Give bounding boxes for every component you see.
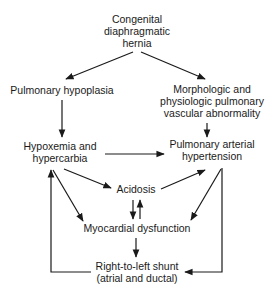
arrow-cdh-to-hypoplasia (66, 52, 133, 79)
node-hypoxemia-hypercarbia: Hypoxemia and hypercarbia (24, 140, 97, 164)
node-label-line: Pulmonary hypoplasia (10, 84, 113, 96)
node-pulmonary-arterial-hypertension: Pulmonary arterial hypertension (169, 138, 254, 162)
node-label-line: Morphologic and (173, 83, 251, 95)
node-vascular-abnormality: Morphologic and physiologic pulmonary va… (160, 83, 265, 119)
node-label-line: Pulmonary arterial (169, 138, 254, 150)
cdh-pathophysiology-diagram: Congenital diaphragmatic hernia Pulmonar… (0, 0, 274, 297)
node-congenital-diaphragmatic-hernia: Congenital diaphragmatic hernia (104, 13, 170, 49)
node-label-line: vascular abnormality (164, 107, 261, 119)
arrow-acidosis-to-pah (161, 170, 205, 189)
arrow-pah-to-shunt (185, 168, 222, 272)
node-label-line: hernia (122, 37, 151, 49)
node-label-line: Congenital (112, 13, 162, 25)
arrow-hypoxemia-to-myocardial (53, 170, 83, 221)
node-label-line: diaphragmatic (104, 25, 170, 37)
node-label-line: hypercarbia (33, 152, 88, 164)
node-acidosis: Acidosis (116, 183, 155, 195)
node-label-line: (atrial and ductal) (96, 272, 177, 284)
node-label-line: Acidosis (116, 183, 155, 195)
node-pulmonary-hypoplasia: Pulmonary hypoplasia (10, 84, 113, 96)
node-right-to-left-shunt: Right-to-left shunt (atrial and ductal) (96, 260, 179, 284)
node-label-line: hypertension (182, 150, 242, 162)
node-label-line: physiologic pulmonary (160, 95, 265, 107)
node-label-line: Right-to-left shunt (96, 260, 179, 272)
node-label-line: Hypoxemia and (24, 140, 97, 152)
arrow-cdh-to-vascular (141, 52, 205, 79)
arrow-shunt-to-hypoxemia (51, 170, 91, 272)
arrow-hypoxemia-to-acidosis (64, 169, 111, 188)
node-label-line: Myocardial dysfunction (84, 222, 191, 234)
node-myocardial-dysfunction: Myocardial dysfunction (84, 222, 191, 234)
arrow-pah-to-myocardial (191, 169, 221, 220)
